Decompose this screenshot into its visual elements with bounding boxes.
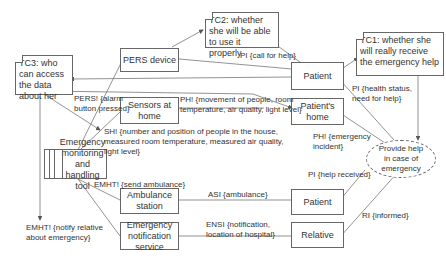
label-pers-alarm: PERS! {alarm button pressed}	[74, 94, 138, 114]
label-text: PERS! {alarm button pressed}	[74, 94, 130, 113]
tc2-note: TC2: whether she will be able to use it …	[205, 12, 279, 48]
emergency-notification-service-label: Emergency notification service	[121, 220, 178, 253]
label-text: ASI {ambulance}	[208, 190, 268, 199]
label-text: PI {health status, need for help}	[352, 84, 412, 103]
label-ph-emergency: PH! {emergency incident}	[313, 132, 373, 152]
tc3-text: TC3: who can access the data about her	[19, 58, 64, 101]
label-text: SH! {number and position of people in th…	[104, 127, 284, 156]
patient-box-top: Patient	[291, 62, 344, 90]
label-emht-send-ambulance: EMHT! {send ambulance}	[94, 180, 185, 190]
relative-label: Relative	[301, 230, 334, 241]
relative-box: Relative	[291, 222, 344, 248]
label-ens-notification: ENSI {notification, location of hospital…	[206, 220, 286, 240]
patient-box-bottom: Patient	[291, 189, 344, 215]
label-ph-movement: PH! {movement of people, room temperatur…	[180, 95, 302, 115]
label-sh-number: SH! {number and position of people in th…	[104, 127, 300, 157]
goal-ellipse-label: Provide help in case of emergency	[377, 144, 425, 174]
label-pi-call-for-help: PI {call for help}	[240, 51, 296, 61]
label-text: EMHT! {send ambulance}	[94, 180, 185, 189]
label-text: PH! {emergency incident}	[313, 132, 371, 151]
patient-top-label: Patient	[303, 71, 331, 82]
label-text: RI {informed}	[362, 211, 409, 220]
label-text: EMHT! {notify relative about emergency}	[26, 223, 103, 242]
label-emht-notify-relative: EMHT! {notify relative about emergency}	[26, 223, 120, 243]
tc1-note: TC1: whether she will really receive the…	[356, 32, 444, 76]
tc1-text: TC1: whether she will really receive the…	[360, 35, 439, 67]
label-text: ENSI {notification, location of hospital…	[206, 220, 275, 239]
label-text: PH! {movement of people, room temperatur…	[180, 95, 302, 114]
label-pi-help-received: PI {help received}	[308, 170, 371, 180]
label-as-ambulance: ASI {ambulance}	[208, 190, 268, 200]
label-pi-health: PI {health status, need for help}	[352, 84, 424, 104]
label-text: PI {help received}	[308, 170, 371, 179]
pers-device-label: PERS device	[123, 55, 176, 66]
tool-stripes-icon	[49, 150, 63, 178]
label-ri-informed: RI {informed}	[362, 211, 409, 221]
ambulance-station-label: Ambulance station	[121, 190, 178, 212]
patient-bottom-label: Patient	[303, 197, 331, 208]
pers-device-box: PERS device	[120, 48, 179, 72]
goal-ellipse: Provide help in case of emergency	[366, 140, 436, 178]
label-text: PI {call for help}	[240, 51, 296, 60]
emht-tool-box: Emergency monitoring and handling tool	[44, 149, 107, 179]
emergency-notification-service-box: Emergency notification service	[120, 222, 179, 250]
tc3-note: TC3: who can access the data about her	[15, 55, 73, 95]
ambulance-station-box: Ambulance station	[120, 188, 179, 214]
